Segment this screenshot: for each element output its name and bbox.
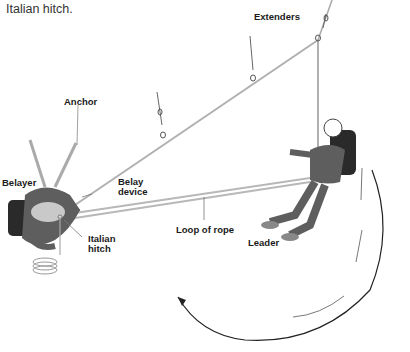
extender-icon <box>157 92 166 138</box>
label-italian-hitch-line2: hitch <box>88 244 115 254</box>
leader-figure <box>261 119 356 241</box>
belayer-figure <box>8 188 80 275</box>
label-anchor: Anchor <box>64 97 97 107</box>
belay-illustration <box>0 0 410 352</box>
rope-to-anchor <box>75 40 318 205</box>
label-italian-hitch: Italian hitch <box>88 234 115 254</box>
extender-icon <box>250 36 256 81</box>
label-leader: Leader <box>248 238 279 248</box>
fall-arc-arrow <box>178 170 383 340</box>
label-loop-of-rope: Loop of rope <box>176 225 234 235</box>
label-extenders: Extenders <box>254 12 300 22</box>
label-belayer: Belayer <box>2 178 36 188</box>
label-belay-device-line2: device <box>118 187 148 197</box>
label-belay-device: Belay device <box>118 177 148 197</box>
